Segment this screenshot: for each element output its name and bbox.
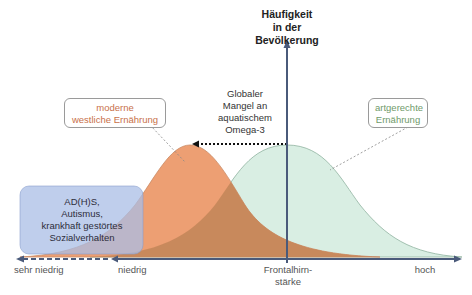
x-label-very-low: sehr niedrig [14,264,74,276]
western-diet-label: moderne westliche Ernährung [64,98,166,128]
conditions-label: AD(H)S, Autismus, krankhaft gestörtes So… [26,196,138,244]
species-diet-label: artgerechte Ernährung [368,98,428,128]
x-label-middle: Frontalhirn- stärke [255,264,321,288]
x-label-low: niedrig [118,264,158,276]
y-axis-label: Häufigkeit in der Bevölkerung [237,8,337,47]
omega3-annotation: Globaler Mangel an aquatischem Omega-3 [205,88,285,136]
x-label-high: hoch [410,264,440,276]
diagram-canvas [0,0,472,295]
